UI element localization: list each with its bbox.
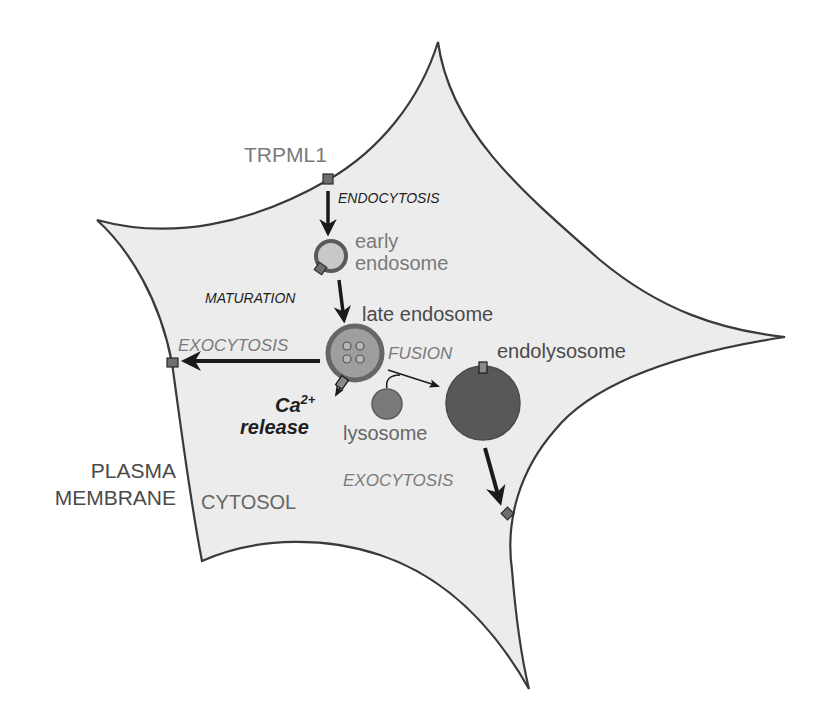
exocytosis-right-label: EXOCYTOSIS (343, 471, 454, 490)
late-endosome-vesicle (343, 342, 351, 350)
fusion-label: FUSION (388, 344, 453, 363)
cytosol-label: CYTOSOL (201, 491, 296, 513)
plasma-membrane-channel-left-icon (167, 358, 178, 367)
maturation-label: MATURATION (205, 290, 296, 306)
late-endosome-label: late endosome (362, 303, 493, 325)
ca-charge-text: 2+ (300, 392, 316, 407)
early-endosome-label-line2: endosome (355, 252, 448, 274)
endocytosis-label: ENDOCYTOSIS (338, 190, 440, 206)
trpml1-trafficking-diagram: TRPML1 ENDOCYTOSIS early endosome MATURA… (0, 0, 814, 721)
ca-ion-text: Ca (275, 394, 301, 416)
lysosome-label: lysosome (343, 422, 427, 444)
late-endosome (328, 326, 382, 380)
early-endosome-label-line1: early (355, 230, 398, 252)
plasma-membrane-label-line1: PLASMA (91, 459, 176, 482)
release-label: release (240, 416, 309, 438)
plasma-membrane-label-line2: MEMBRANE (55, 486, 176, 509)
late-endosome-vesicle (343, 355, 351, 363)
late-endosome-vesicle (356, 355, 364, 363)
late-endosome-vesicle (356, 342, 364, 350)
trpml1-label: TRPML1 (244, 143, 327, 166)
trpml1-channel-icon (323, 174, 333, 184)
endolysosome-channel-icon (479, 362, 487, 373)
cell-membrane-outline (97, 42, 785, 689)
endolysosome-label: endolysosome (497, 340, 626, 362)
exocytosis-left-label: EXOCYTOSIS (178, 336, 289, 355)
endolysosome (446, 366, 520, 440)
lysosome (372, 389, 402, 419)
